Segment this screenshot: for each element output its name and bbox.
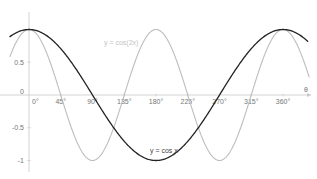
y-tick-label: -0.5 — [12, 124, 24, 131]
curve-labels: y = cos(2x)y = cos x — [104, 39, 178, 155]
trig-chart: 0°45°90°135°180°225°270°315°360°0.50-0.5… — [0, 0, 317, 179]
y-tick-label: 0 — [20, 88, 24, 95]
x-axis-label: θ — [304, 86, 308, 93]
cos-x-label: y = cos x — [150, 147, 178, 155]
x-axis-arrow-icon — [307, 93, 311, 97]
y-tick-label: -1 — [18, 157, 24, 164]
x-tick-label: 180° — [149, 98, 164, 105]
x-tick-label: 360° — [276, 98, 291, 105]
x-tick-label: 0° — [32, 98, 39, 105]
x-tick-label: 45° — [55, 98, 66, 105]
cos-2x-label: y = cos(2x) — [104, 39, 138, 47]
x-tick-label: 315° — [244, 98, 259, 105]
x-tick-label: 135° — [117, 98, 132, 105]
y-tick-label: 0.5 — [14, 59, 24, 66]
x-tick-label: 225° — [181, 98, 196, 105]
